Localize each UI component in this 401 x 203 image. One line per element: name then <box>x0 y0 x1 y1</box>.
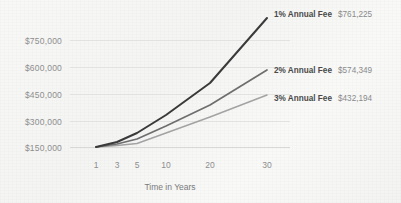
gridlines-group <box>70 41 290 148</box>
x-tick-label-30: 30 <box>262 160 272 170</box>
annotation-label-3-percent: 3% Annual Fee <box>274 94 332 103</box>
series-line-2-percent <box>96 70 267 147</box>
x-tick-label-20: 20 <box>205 160 215 170</box>
annotation-value-1-percent: $761,225 <box>338 10 373 19</box>
fee-comparison-line-chart: $750,000 $600,000 $450,000 $300,000 $150… <box>0 0 401 203</box>
series-annotation-2-percent: 2% Annual Fee $574,349 <box>274 66 373 75</box>
x-tick-label-5: 5 <box>135 160 140 170</box>
y-tick-label-450000: $450,000 <box>25 90 62 100</box>
y-tick-label-600000: $600,000 <box>25 63 62 73</box>
y-axis-tick-labels: $750,000 $600,000 $450,000 $300,000 $150… <box>25 36 62 153</box>
y-tick-label-150000: $150,000 <box>25 143 62 153</box>
x-tick-label-1: 1 <box>94 160 99 170</box>
y-tick-label-750000: $750,000 <box>25 36 62 46</box>
annotation-label-1-percent: 1% Annual Fee <box>274 10 332 19</box>
series-group <box>96 18 267 147</box>
annotation-value-2-percent: $574,349 <box>338 66 373 75</box>
series-annotation-1-percent: 1% Annual Fee $761,225 <box>274 10 373 19</box>
x-axis-title: Time in Years <box>144 182 195 192</box>
x-axis-tick-labels: 1 3 5 10 20 30 <box>94 160 272 170</box>
chart-canvas: $750,000 $600,000 $450,000 $300,000 $150… <box>0 0 401 203</box>
annotation-label-2-percent: 2% Annual Fee <box>274 66 332 75</box>
annotation-value-3-percent: $432,194 <box>338 94 373 103</box>
x-tick-label-3: 3 <box>115 160 120 170</box>
y-tick-label-300000: $300,000 <box>25 117 62 127</box>
x-tick-label-10: 10 <box>161 160 171 170</box>
series-annotation-3-percent: 3% Annual Fee $432,194 <box>274 94 373 103</box>
